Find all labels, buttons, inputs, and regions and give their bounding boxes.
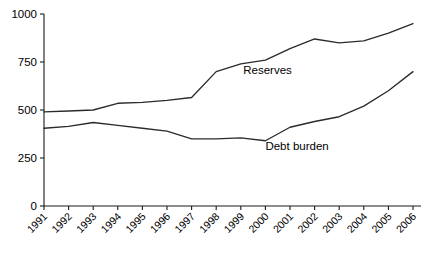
x-tick-label: 1993 (74, 210, 99, 235)
series-line-debt-burden (44, 72, 413, 141)
x-tick-label: 1995 (123, 210, 148, 235)
y-tick-label: 1000 (11, 8, 37, 20)
x-axis: 1991199219931994199519961997199819992000… (24, 206, 421, 235)
x-tick-label: 1991 (24, 210, 49, 235)
chart-svg: 02505007501000 1991199219931994199519961… (0, 0, 427, 255)
y-axis: 02505007501000 (11, 8, 44, 212)
y-tick-label: 0 (31, 200, 37, 212)
series-annotation-debt-burden: Debt burden (265, 140, 328, 152)
x-tick-label: 1994 (98, 210, 123, 235)
x-tick-label: 2006 (393, 210, 418, 235)
x-tick-label: 1992 (49, 210, 74, 235)
x-tick-label: 2005 (369, 210, 394, 235)
x-tick-label: 2000 (246, 210, 271, 235)
y-tick-label: 500 (18, 104, 37, 116)
series-group (44, 24, 413, 141)
y-tick-group (40, 14, 44, 206)
y-tick-label: 750 (18, 56, 37, 68)
y-tick-label-group: 02505007501000 (11, 8, 37, 212)
line-chart: 02505007501000 1991199219931994199519961… (0, 0, 427, 255)
series-line-reserves (44, 24, 413, 112)
x-tick-label: 2004 (344, 210, 369, 235)
x-tick-group (44, 206, 413, 210)
x-tick-label: 1998 (197, 210, 222, 235)
x-tick-label: 2001 (270, 210, 295, 235)
x-tick-label: 1996 (147, 210, 172, 235)
x-tick-label: 2003 (320, 210, 345, 235)
y-tick-label: 250 (18, 152, 37, 164)
x-tick-label: 1999 (221, 210, 246, 235)
x-tick-label: 2002 (295, 210, 320, 235)
series-annotation-reserves: Reserves (243, 64, 292, 76)
x-tick-label-group: 1991199219931994199519961997199819992000… (24, 210, 418, 235)
x-tick-label: 1997 (172, 210, 197, 235)
